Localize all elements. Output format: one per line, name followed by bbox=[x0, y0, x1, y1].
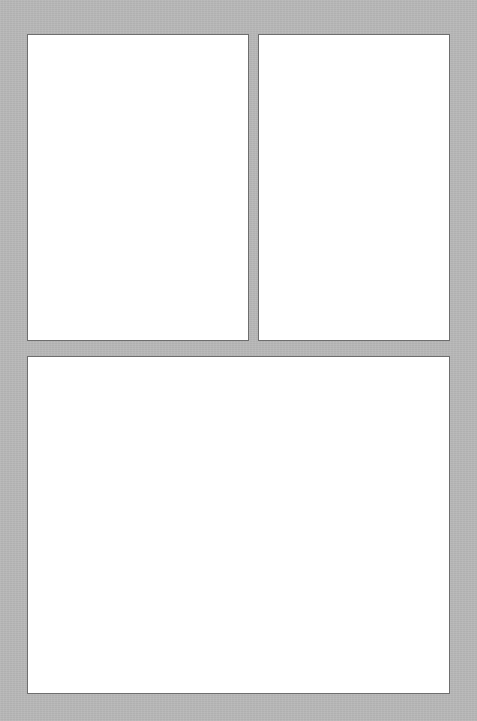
top-right-panel[interactable] bbox=[258, 34, 450, 341]
page-canvas bbox=[0, 0, 477, 721]
bottom-panel-surface bbox=[28, 357, 449, 693]
top-right-panel-surface bbox=[259, 35, 449, 340]
top-left-panel[interactable] bbox=[27, 34, 249, 341]
bottom-panel[interactable] bbox=[27, 356, 450, 694]
top-left-panel-surface bbox=[28, 35, 248, 340]
